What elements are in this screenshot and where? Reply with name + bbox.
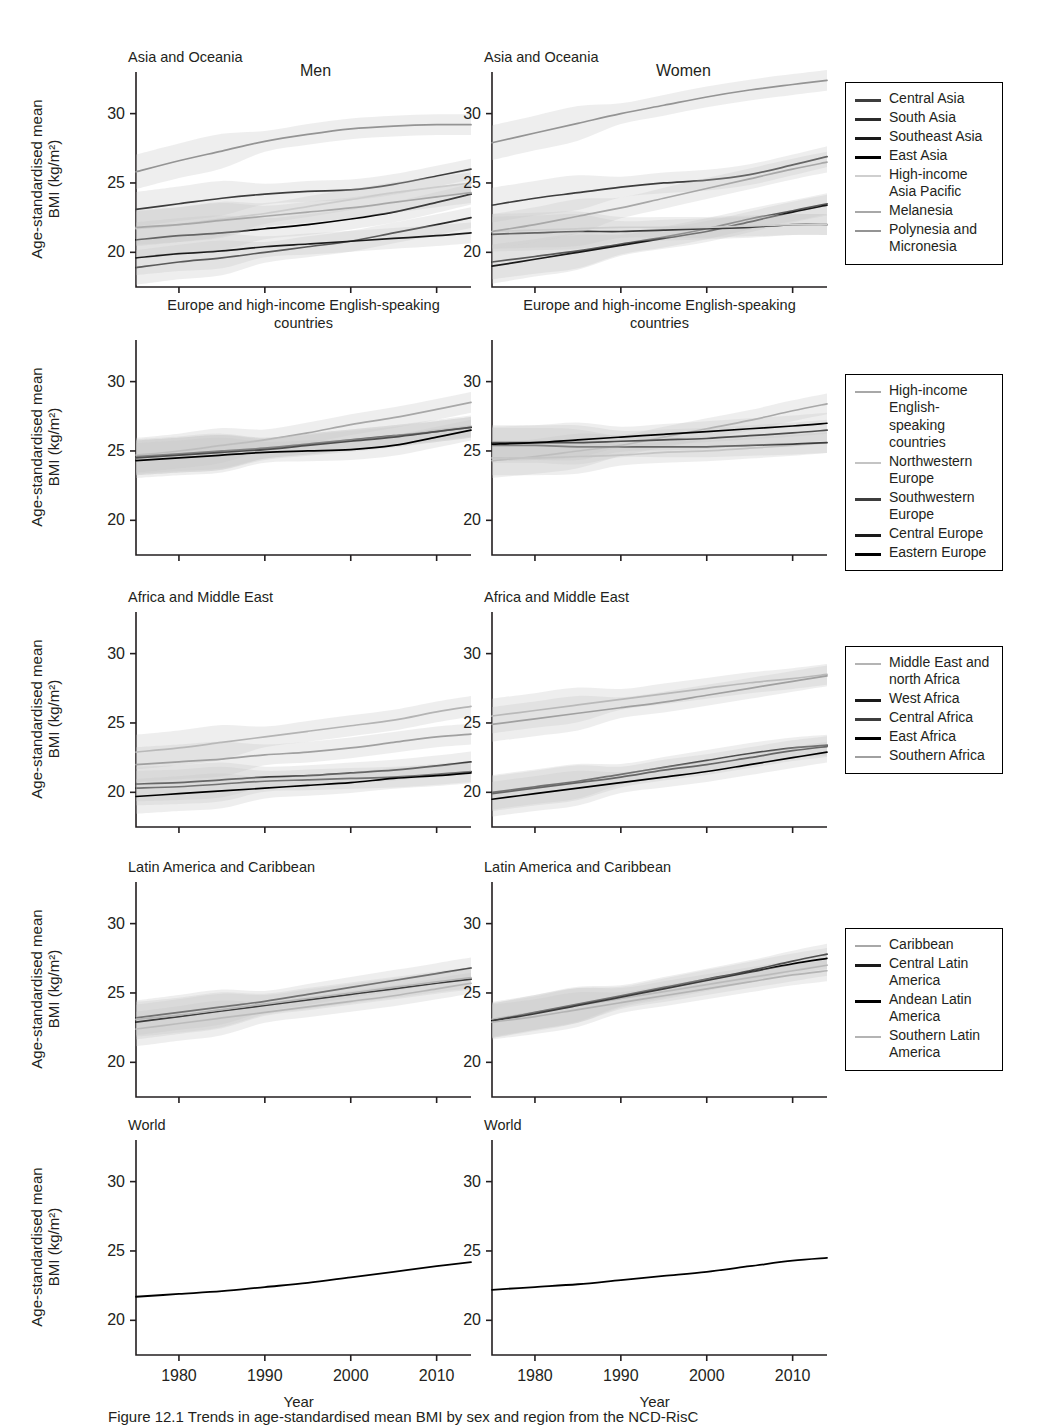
series-line [492,958,827,1020]
figure-bmi-trends: Age-standardised meanBMI (kg/m²)Asia and… [0,0,1049,1428]
y-axis-label: Age-standardised meanBMI (kg/m²) [27,71,61,286]
legend-entry: Northwestern Europe [855,453,994,488]
legend-color-swatch [855,1031,881,1045]
series-line [492,674,827,716]
uncertainty-band [492,955,827,1037]
series-line [136,183,471,229]
legend-entry-label: West Africa [889,690,960,708]
series-line [136,193,471,228]
uncertainty-band [136,967,471,1036]
x-tick-label: 1990 [247,1367,283,1384]
series-line [136,427,471,458]
uncertainty-band [136,969,471,1040]
legend-2: Middle East and north AfricaWest AfricaC… [845,646,1003,774]
y-tick-label: 20 [463,783,481,800]
y-tick-label: 25 [107,442,125,459]
panel-title: Africa and Middle East [484,588,629,606]
series-line [136,194,471,240]
uncertainty-band [492,742,827,817]
y-tick-label: 30 [463,105,481,122]
x-tick-label: 2010 [419,1367,455,1384]
uncertainty-band [492,214,827,252]
series-line [492,747,827,794]
uncertainty-band [136,416,471,476]
legend-color-swatch [855,940,881,954]
legend-entry: Central Asia [855,90,994,108]
women-label: Women [656,62,711,80]
legend-entry: East Asia [855,147,994,165]
legend-color-swatch [855,959,881,973]
legend-entry-label: East Africa [889,728,956,746]
y-tick-label: 25 [107,984,125,1001]
legend-entry-label: Eastern Europe [889,544,986,562]
legend-entry: Central Africa [855,709,994,727]
y-tick-label: 25 [107,174,125,191]
uncertainty-band [136,420,471,478]
legend-color-swatch [855,170,881,184]
panel-title: Latin America and Caribbean [128,858,315,876]
legend-entry-label: Central Latin America [889,955,994,990]
legend-entry: West Africa [855,690,994,708]
y-axis-label-line2: BMI (kg/m²) [44,339,61,554]
uncertainty-band [136,207,471,285]
y-axis-label-line2: BMI (kg/m²) [44,881,61,1096]
legend-entry: Southwestern Europe [855,489,994,524]
y-tick-label: 20 [107,1311,125,1328]
legend-entry: Middle East and north Africa [855,654,994,689]
series-line [136,706,471,752]
uncertainty-band [136,761,471,805]
legend-color-swatch [855,548,881,562]
legend-entry-label: Central Africa [889,709,973,727]
y-axis-label-line1: Age-standardised mean [27,909,44,1068]
uncertainty-band [492,413,827,462]
uncertainty-band [136,184,471,258]
uncertainty-band [136,223,471,276]
uncertainty-band [492,432,827,475]
series-line [136,1262,471,1297]
series-line [492,443,827,447]
y-tick-label: 20 [107,243,125,260]
uncertainty-band [492,428,827,464]
y-tick-label: 25 [463,442,481,459]
y-axis-label: Age-standardised meanBMI (kg/m²) [27,1139,61,1354]
series-line [136,978,471,1020]
uncertainty-band [492,211,827,249]
y-tick-label: 30 [463,373,481,390]
series-line [492,205,827,266]
series-line [492,423,827,444]
y-tick-label: 20 [463,1053,481,1070]
legend-color-swatch [855,132,881,146]
legend-color-swatch [855,457,881,471]
series-line [492,162,827,231]
series-line [492,752,827,799]
y-axis-label: Age-standardised meanBMI (kg/m²) [27,881,61,1096]
legend-color-swatch [855,113,881,127]
x-tick-label: 1980 [517,1367,553,1384]
uncertainty-band [492,944,827,1038]
legend-entry-label: Central Europe [889,525,983,543]
series-line [492,965,827,1019]
series-line [492,204,827,262]
uncertainty-band [136,159,471,227]
y-tick-label: 25 [463,984,481,1001]
uncertainty-band [136,417,471,475]
uncertainty-band [492,664,827,733]
y-axis-label: Age-standardised meanBMI (kg/m²) [27,339,61,554]
y-tick-label: 30 [107,373,125,390]
x-tick-label: 1990 [603,1367,639,1384]
legend-entry-label: High-income Asia Pacific [889,166,994,201]
uncertainty-band [136,182,471,244]
x-tick-label: 2010 [775,1367,811,1384]
uncertainty-band [492,152,827,249]
y-tick-label: 25 [463,174,481,191]
legend-entry-label: Northwestern Europe [889,453,994,488]
legend-entry: Central Europe [855,525,994,543]
legend-entry-label: Southern Africa [889,747,985,765]
uncertainty-band [136,417,471,474]
series-line [492,676,827,725]
x-tick-label: 2000 [689,1367,725,1384]
series-line [492,80,827,142]
uncertainty-band [492,420,827,461]
panel-title: Africa and Middle East [128,588,273,606]
legend-entry-label: Melanesia [889,202,953,220]
